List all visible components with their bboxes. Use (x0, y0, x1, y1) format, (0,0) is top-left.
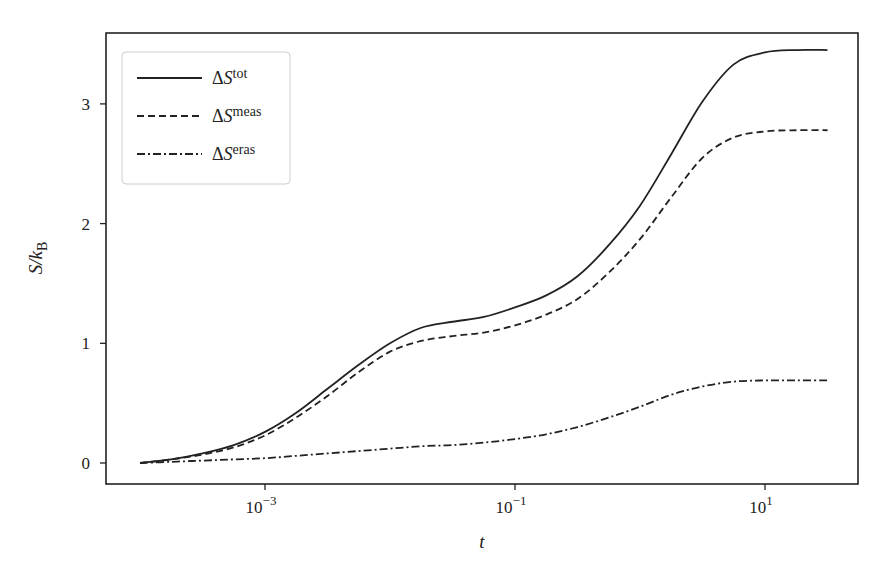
x-tick-label: 101 (749, 493, 773, 517)
series-line-dashdot (140, 380, 828, 463)
y-axis-label: S/kB (25, 242, 50, 275)
x-tick-label: 10−1 (496, 493, 527, 517)
y-tick-label: 2 (82, 215, 91, 234)
chart: 0123 10−310−1101 t S/kB ΔStotΔSmeasΔSera… (0, 0, 893, 578)
y-axis-ticks: 0123 (82, 95, 107, 473)
y-tick-label: 1 (82, 334, 91, 353)
legend-box (122, 52, 290, 184)
y-tick-label: 3 (82, 95, 91, 114)
svg-text:S/kB: S/kB (25, 242, 50, 275)
x-tick-label: 10−3 (246, 493, 277, 517)
y-tick-label: 0 (82, 454, 91, 473)
legend: ΔStotΔSmeasΔSeras (122, 52, 290, 184)
x-axis-ticks: 10−310−1101 (246, 484, 773, 517)
x-axis-label: t (479, 531, 485, 552)
